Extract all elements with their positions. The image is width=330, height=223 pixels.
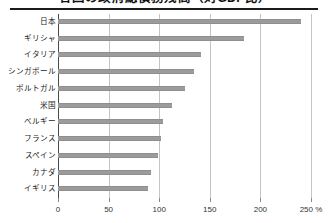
bar-row [58, 31, 311, 47]
bar-row [58, 114, 311, 130]
category-label-日本: 日本 [0, 17, 56, 27]
bar-row [58, 148, 311, 164]
chart-title-container: 各国の政府総債務残高（対GDP比） [0, 0, 330, 8]
tick-mark-200 [260, 198, 261, 202]
category-label-ポルトガル: ポルトガル [0, 84, 56, 94]
bar-シンガポール [58, 69, 194, 74]
bar-スペイン [58, 153, 158, 158]
bar-ベルギー [58, 119, 163, 124]
tick-mark-0 [58, 198, 59, 202]
bar-row [58, 81, 311, 97]
bar-カナダ [58, 170, 151, 175]
tick-mark-50 [109, 198, 110, 202]
bar-ポルトガル [58, 86, 185, 91]
bar-row [58, 14, 311, 30]
tick-mark-100 [159, 198, 160, 202]
gridline-250 [311, 14, 312, 198]
bar-米国 [58, 103, 172, 108]
category-label-ギリシャ: ギリシャ [0, 34, 56, 44]
bar-日本 [58, 19, 301, 24]
bar-row [58, 47, 311, 63]
bar-フランス [58, 136, 161, 141]
bar-イギリス [58, 186, 148, 191]
category-label-イギリス: イギリス [0, 184, 56, 194]
bar-chart: 各国の政府総債務残高（対GDP比） 日本ギリシャイタリアシンガポールポルトガル米… [0, 0, 330, 223]
bar-row [58, 64, 311, 80]
title-divider [10, 8, 318, 10]
category-label-スペイン: スペイン [0, 151, 56, 161]
bar-イタリア [58, 52, 201, 57]
bar-row [58, 131, 311, 147]
bar-ギリシャ [58, 36, 244, 41]
bar-row [58, 181, 311, 197]
category-label-シンガポール: シンガポール [0, 67, 56, 77]
bar-row [58, 98, 311, 114]
category-label-米国: 米国 [0, 101, 56, 111]
category-label-ベルギー: ベルギー [0, 117, 56, 127]
chart-title: 各国の政府総債務残高（対GDP比） [0, 0, 330, 5]
bar-row [58, 165, 311, 181]
tick-mark-150 [210, 198, 211, 202]
tick-mark-250 [311, 198, 312, 202]
x-tick-label-250: 250 % [281, 205, 330, 215]
category-label-カナダ: カナダ [0, 168, 56, 178]
category-label-フランス: フランス [0, 134, 56, 144]
category-label-イタリア: イタリア [0, 50, 56, 60]
